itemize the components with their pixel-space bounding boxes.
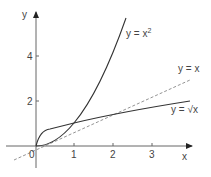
- axes: [6, 12, 192, 168]
- x-tick-label-1: 1: [71, 149, 77, 160]
- function-plot: y x 0 1 2 3 2 4 y = x2 y = x y = √x: [0, 0, 211, 177]
- y-tick-label-4: 4: [27, 51, 33, 62]
- curve-y-equals-x: [14, 80, 190, 160]
- x-tick-label-2: 2: [110, 149, 116, 160]
- y-axis-label: y: [22, 9, 27, 20]
- x-tick-label-3: 3: [149, 149, 155, 160]
- curve-label-x-squared: y = x2: [126, 27, 151, 39]
- y-axis-arrow-icon: [33, 11, 39, 18]
- curve-label-sqrt-x: y = √x: [171, 104, 198, 115]
- curve-label-x: y = x: [178, 63, 199, 74]
- y-tick-label-2: 2: [27, 96, 33, 107]
- x-axis-arrow-icon: [186, 143, 193, 149]
- curve-y-equals-x-squared: [36, 18, 126, 146]
- curve-y-equals-sqrt-x: [36, 101, 190, 146]
- x-axis-label: x: [182, 151, 187, 162]
- origin-label: 0: [29, 149, 35, 160]
